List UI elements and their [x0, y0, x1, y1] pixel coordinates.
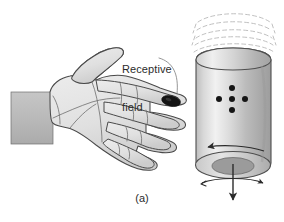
rotation-motion-arcs [192, 14, 276, 52]
receptive-field-label: Receptive field [122, 38, 172, 138]
panel-caption: (a) [0, 192, 284, 205]
rotating-drum [196, 48, 272, 179]
figure-panel-a: Receptive field (a) [0, 0, 284, 222]
spin-double-arrow [201, 179, 263, 187]
receptive-field-label-line2: field [122, 101, 172, 114]
forearm-sleeve [11, 92, 53, 144]
receptive-field-label-line1: Receptive [122, 63, 172, 76]
